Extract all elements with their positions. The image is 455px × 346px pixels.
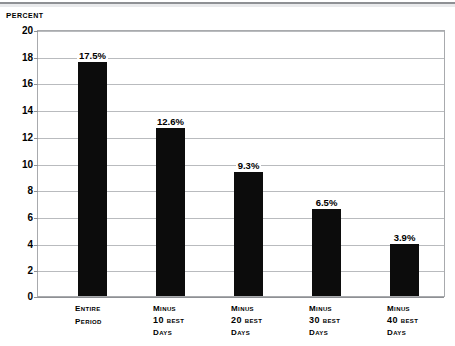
bar-value-label: 6.5% <box>314 197 340 208</box>
bar-rect[interactable] <box>78 62 107 296</box>
ytick-mark-12 <box>34 138 38 139</box>
xlabel-line-1: Entire <box>75 302 102 315</box>
ytick-label-14: 14 <box>22 106 33 116</box>
ytick-mark-2 <box>34 271 38 272</box>
xlabel-minus-10-best-days: Minus 10 Best Days <box>153 302 184 339</box>
ytick-mark-4 <box>34 245 38 246</box>
bar-rect[interactable] <box>234 172 263 296</box>
xlabel-minus-30-best-days: Minus 30 Best Days <box>309 302 340 339</box>
y-axis-title: Percent <box>6 8 44 21</box>
bar-minus-20-best-days[interactable]: 9.3% <box>234 160 263 296</box>
xlabel-minus-20-best-days: Minus 20 Best Days <box>231 302 262 339</box>
xlabel-line-3: Days <box>153 326 184 339</box>
ytick-mark-18 <box>34 58 38 59</box>
ytick-label-16: 16 <box>22 79 33 89</box>
chart-plot-area: 20 18 16 14 12 10 8 6 4 2 0 17.5% <box>37 30 445 297</box>
bar-rect[interactable] <box>312 209 341 296</box>
ytick-label-18: 18 <box>22 53 33 63</box>
xlabel-line-1: Minus <box>153 302 184 315</box>
ytick-mark-8 <box>34 191 38 192</box>
gridline-20: 20 <box>38 31 444 32</box>
bar-rect[interactable] <box>390 244 419 296</box>
ytick-label-20: 20 <box>22 26 33 36</box>
xlabel-minus-40-best-days: Minus 40 Best Days <box>387 302 418 339</box>
ytick-label-0: 0 <box>27 292 33 302</box>
xlabel-line-1: Minus <box>231 302 262 315</box>
ytick-mark-0 <box>34 297 38 298</box>
ytick-label-6: 6 <box>27 213 33 223</box>
gridline-0: 0 <box>38 297 444 298</box>
ytick-label-2: 2 <box>27 266 33 276</box>
ytick-label-4: 4 <box>27 240 33 250</box>
xlabel-line-2: Period <box>75 315 102 328</box>
xlabel-line-3: Days <box>309 326 340 339</box>
top-divider-shadow <box>0 4 455 7</box>
ytick-label-12: 12 <box>22 133 33 143</box>
bar-value-label: 12.6% <box>155 116 186 127</box>
xlabel-entire-period: Entire Period <box>75 302 102 327</box>
bar-rect[interactable] <box>156 128 185 296</box>
bar-value-label: 9.3% <box>236 160 262 171</box>
ytick-mark-6 <box>34 218 38 219</box>
bar-value-label: 17.5% <box>77 50 108 61</box>
ytick-label-8: 8 <box>27 186 33 196</box>
bar-entire-period[interactable]: 17.5% <box>78 50 107 296</box>
ytick-label-10: 10 <box>22 160 33 170</box>
ytick-mark-20 <box>34 31 38 32</box>
bar-minus-30-best-days[interactable]: 6.5% <box>312 197 341 296</box>
bar-minus-40-best-days[interactable]: 3.9% <box>390 232 419 296</box>
xlabel-line-1: Minus <box>309 302 340 315</box>
ytick-mark-10 <box>34 165 38 166</box>
ytick-mark-14 <box>34 111 38 112</box>
xlabel-line-3: Days <box>387 326 418 339</box>
ytick-mark-16 <box>34 84 38 85</box>
xlabel-line-1: Minus <box>387 302 418 315</box>
bar-minus-10-best-days[interactable]: 12.6% <box>156 116 185 296</box>
bar-value-label: 3.9% <box>392 232 418 243</box>
xlabel-line-3: Days <box>231 326 262 339</box>
